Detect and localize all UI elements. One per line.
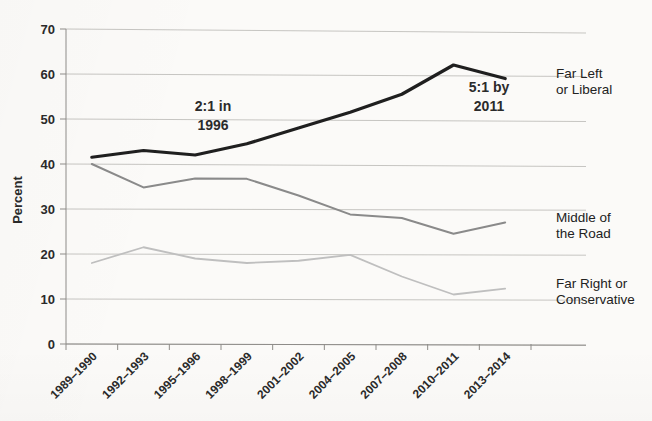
x-tick-label-6: 2007–2008 <box>358 349 411 402</box>
series-label-line2: the Road <box>556 226 611 241</box>
y-tick-label-60: 60 <box>41 67 55 82</box>
series-label-line2: or Liberal <box>556 82 612 97</box>
gridline-10 <box>66 299 586 300</box>
chart-canvas: 010203040506070 1989–19901992–19931995–1… <box>0 0 652 421</box>
annotation-line1: 2:1 in <box>195 98 232 114</box>
x-axis-line <box>66 344 586 345</box>
x-axis: 1989–19901992–19931995–19961998–19992001… <box>48 344 586 402</box>
series-label-0: Far Leftor Liberal <box>556 66 612 97</box>
x-tick-label-3: 1998–1999 <box>203 349 256 402</box>
y-tick-label-40: 40 <box>41 157 55 172</box>
x-tick-label-5: 2004–2005 <box>306 349 359 402</box>
x-tick-label-0: 1989–1990 <box>48 349 101 402</box>
y-tick-label-50: 50 <box>41 112 55 127</box>
gridline-60 <box>66 74 586 77</box>
gridline-20 <box>66 254 586 255</box>
series-line-0 <box>92 65 505 157</box>
y-tick-label-70: 70 <box>41 22 55 37</box>
y-tick-label-30: 30 <box>41 202 55 217</box>
y-tick-label-20: 20 <box>41 247 55 262</box>
gridline-40 <box>66 164 586 167</box>
line-chart: 010203040506070 1989–19901992–19931995–1… <box>0 0 652 421</box>
series-label-1: Middle ofthe Road <box>556 210 611 241</box>
series-label-line1: Middle of <box>556 210 611 225</box>
annotation-ratio-1996: 2:1 in1996 <box>195 98 232 133</box>
y-tick-label-10: 10 <box>41 292 55 307</box>
gridline-30 <box>66 209 586 210</box>
x-tick-label-2: 1995–1996 <box>151 349 204 402</box>
series-label-line2: Conservative <box>556 292 635 307</box>
x-tick-label-8: 2013–2014 <box>461 349 514 402</box>
series-lines <box>92 65 505 295</box>
series-label-line1: Far Left <box>556 66 603 81</box>
annotation-line1: 5:1 by <box>469 79 510 95</box>
chart-annotations: 2:1 in19965:1 by2011 <box>195 79 510 133</box>
series-label-2: Far Right orConservative <box>556 276 635 307</box>
y-axis: 010203040506070 <box>41 22 66 352</box>
y-tick-label-0: 0 <box>48 337 55 352</box>
annotation-line2: 1996 <box>197 117 228 133</box>
series-line-1 <box>92 164 505 234</box>
x-tick-label-7: 2010–2011 <box>410 349 462 401</box>
annotation-ratio-2011: 5:1 by2011 <box>469 79 510 114</box>
gridline-70 <box>66 29 586 33</box>
x-tick-label-4: 2001–2002 <box>254 349 307 402</box>
series-label-line1: Far Right or <box>556 276 628 291</box>
x-tick-label-1: 1992–1993 <box>99 349 152 402</box>
annotation-line2: 2011 <box>474 98 505 114</box>
series-labels: Far Leftor LiberalMiddle ofthe RoadFar R… <box>556 66 635 307</box>
y-axis-title: Percent <box>10 175 25 223</box>
